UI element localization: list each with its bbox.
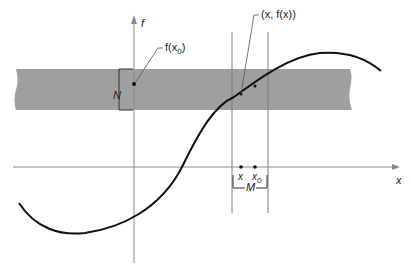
x-point (239, 165, 243, 169)
curve-point-x0 (254, 85, 257, 88)
x-point-label: x (238, 172, 243, 182)
x0-point (253, 165, 257, 169)
neighborhood-band-N (15, 69, 353, 110)
curve-point-label: (x, f(x)) (261, 9, 296, 20)
x-axis-arrow-icon (392, 164, 400, 170)
x-axis-label: x (396, 175, 402, 186)
f-x0-label: f(x0) (165, 42, 185, 56)
x0-point-label: x0 (252, 172, 261, 185)
f-axis-label: f (141, 18, 144, 29)
f-axis-arrow-icon (131, 15, 137, 24)
continuity-diagram (0, 0, 411, 276)
band-label-N: N (113, 90, 121, 101)
